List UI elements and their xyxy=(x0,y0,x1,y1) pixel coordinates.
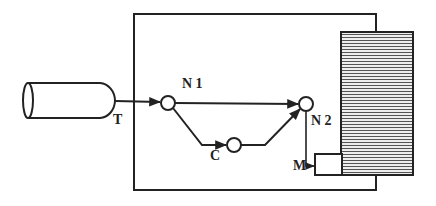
node-n2 xyxy=(299,97,313,111)
tank-icon xyxy=(23,83,115,118)
flow-n1-c xyxy=(173,108,226,145)
node-n1 xyxy=(161,96,175,110)
hatched-block xyxy=(341,32,413,175)
flow-t-n1 xyxy=(115,101,160,102)
label-n1: N 1 xyxy=(182,76,203,91)
diagram-canvas: T N 1 N 2 C M xyxy=(0,0,436,206)
label-c: C xyxy=(210,148,220,163)
label-n2: N 2 xyxy=(311,113,332,128)
node-c xyxy=(227,138,241,152)
flow-n1-n2 xyxy=(175,103,298,104)
label-t: T xyxy=(113,112,123,127)
label-m: M xyxy=(293,158,306,173)
flow-c-n2 xyxy=(241,109,300,145)
m-box xyxy=(315,154,342,175)
